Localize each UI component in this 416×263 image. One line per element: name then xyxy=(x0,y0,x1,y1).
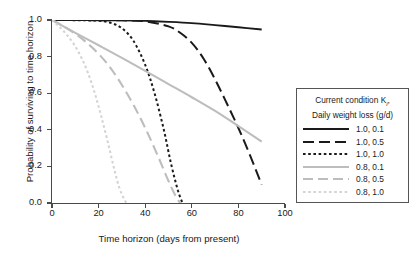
survival-curves xyxy=(52,20,285,203)
y-tick xyxy=(47,202,51,203)
legend-label: 0.8, 0.5 xyxy=(351,174,403,184)
legend-line-sample xyxy=(299,162,351,172)
x-tick-label: 60 xyxy=(177,209,207,218)
legend-entry[interactable]: 1.0, 0.1 xyxy=(297,123,408,136)
x-axis-line xyxy=(51,203,285,204)
legend-title-text: Current condition K xyxy=(315,95,386,105)
legend-title-line2: Daily weight loss (g/d) xyxy=(312,110,393,120)
x-tick-label: 40 xyxy=(130,209,160,218)
legend-label: 0.8, 0.1 xyxy=(351,162,403,172)
x-axis-label: Time horizon (days from present) xyxy=(52,233,286,244)
legend-entry[interactable]: 0.8, 0.1 xyxy=(297,160,408,173)
y-tick xyxy=(47,93,51,94)
legend: Current condition Ki, Daily weight loss … xyxy=(296,88,409,203)
y-tick xyxy=(47,129,51,130)
y-axis-label: Probability of surviving to time horizon xyxy=(24,2,35,202)
legend-line-sample xyxy=(299,124,351,134)
x-tick-label: 100 xyxy=(270,209,300,218)
legend-entry[interactable]: 1.0, 0.5 xyxy=(297,135,408,148)
legend-label: 0.8, 1.0 xyxy=(351,187,403,197)
series-line xyxy=(52,20,262,142)
legend-label: 1.0, 0.5 xyxy=(351,137,403,147)
legend-title-comma: , xyxy=(388,95,390,105)
legend-entry[interactable]: 1.0, 1.0 xyxy=(297,148,408,161)
chart-figure: 0.00.20.40.60.81.0 020406080100 Probabil… xyxy=(0,0,416,263)
legend-line-sample xyxy=(299,174,351,184)
legend-entry[interactable]: 0.8, 1.0 xyxy=(297,186,408,199)
y-tick xyxy=(47,19,51,20)
x-tick-label: 0 xyxy=(37,209,67,218)
series-line xyxy=(52,20,180,203)
legend-line-sample xyxy=(299,137,351,147)
series-line xyxy=(52,20,262,185)
x-tick-label: 20 xyxy=(84,209,114,218)
legend-title: Current condition Ki, Daily weight loss … xyxy=(297,89,408,123)
legend-title-line1: Current condition Ki, xyxy=(315,95,390,105)
legend-label: 1.0, 1.0 xyxy=(351,149,403,159)
legend-entries: 1.0, 0.11.0, 0.51.0, 1.00.8, 0.10.8, 0.5… xyxy=(297,123,408,199)
legend-entry[interactable]: 0.8, 0.5 xyxy=(297,173,408,186)
series-line xyxy=(52,20,262,30)
legend-line-sample xyxy=(299,149,351,159)
y-tick xyxy=(47,56,51,57)
series-line xyxy=(52,20,182,203)
plot-area xyxy=(52,20,285,203)
series-line xyxy=(52,20,127,203)
y-tick xyxy=(47,166,51,167)
x-tick-label: 80 xyxy=(223,209,253,218)
legend-line-sample xyxy=(299,187,351,197)
legend-label: 1.0, 0.1 xyxy=(351,124,403,134)
